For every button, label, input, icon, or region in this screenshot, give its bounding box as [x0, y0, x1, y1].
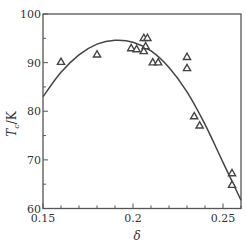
y-tick-labels: 60708090100: [20, 8, 41, 216]
x-tick-label: 0.25: [211, 212, 236, 225]
y-axis-label: Tc/K: [5, 110, 21, 137]
axis-ticks: [43, 14, 241, 209]
y-tick-label: 90: [27, 57, 41, 70]
y-label-unit: /K: [5, 110, 19, 124]
plot-area: 60708090100 0.150.20.25 δ Tc/K: [0, 0, 246, 246]
x-tick-labels: 0.150.20.25: [31, 212, 236, 225]
x-tick-label: 0.15: [31, 212, 56, 225]
y-tick-label: 100: [20, 8, 41, 21]
y-tick-label: 80: [27, 105, 41, 118]
fit-curve: [43, 40, 241, 200]
triangle-marker: [133, 45, 140, 51]
triangle-marker: [196, 122, 203, 128]
triangle-marker: [191, 113, 198, 119]
triangle-marker: [228, 169, 235, 175]
triangle-marker: [93, 51, 100, 57]
x-axis-label: δ: [133, 229, 140, 243]
x-tick-label: 0.2: [124, 212, 142, 225]
y-tick-label: 70: [27, 154, 41, 167]
plot-border: [43, 14, 241, 209]
triangle-marker: [57, 58, 64, 64]
data-markers: [57, 34, 235, 187]
triangle-marker: [183, 64, 190, 70]
axes-frame: [43, 14, 241, 209]
chart: 60708090100 0.150.20.25 δ Tc/K: [0, 0, 246, 246]
triangle-marker: [228, 181, 235, 187]
triangle-marker: [183, 53, 190, 59]
